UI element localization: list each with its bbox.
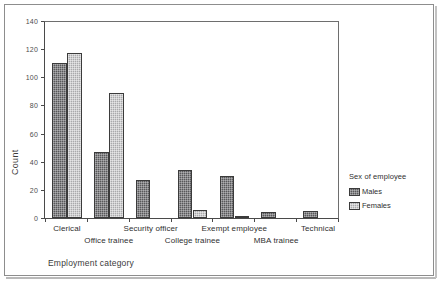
- y-axis-tick: [41, 49, 44, 50]
- y-axis: 020406080100120140: [0, 21, 44, 219]
- x-axis-tick: [129, 219, 130, 222]
- legend-swatch-icon: [349, 202, 360, 210]
- bar-office-trainee-males: [94, 152, 109, 218]
- y-axis-tick: [41, 162, 44, 163]
- bar-college-trainee-females: [193, 210, 208, 218]
- y-axis-tick-label: 120: [26, 46, 38, 53]
- x-axis-tick: [45, 219, 46, 222]
- y-axis-tick-label: 140: [26, 18, 38, 25]
- x-axis-title: Employment category: [48, 258, 134, 268]
- y-axis-tick-label: 100: [26, 74, 38, 81]
- legend-entries: MalesFemales: [349, 187, 435, 210]
- x-axis-tick: [212, 219, 213, 222]
- y-axis-tick-label: 0: [34, 215, 38, 222]
- y-axis-tick-label: 80: [30, 102, 38, 109]
- x-axis-category-label: College trainee: [165, 236, 220, 245]
- bar-clerical-males: [52, 63, 67, 218]
- legend-label: Females: [362, 201, 391, 210]
- bar-clerical-females: [67, 53, 82, 218]
- legend-entry-males: Males: [349, 187, 435, 196]
- x-axis-tick: [87, 219, 88, 222]
- outer-border-shadow-bottom: [6, 277, 436, 279]
- x-axis-tick: [254, 219, 255, 222]
- y-axis-tick: [41, 190, 44, 191]
- x-axis-category-label: Security officer: [123, 224, 177, 233]
- x-axis-category-label: Clerical: [53, 224, 80, 233]
- bar-security-officer-males: [136, 180, 151, 218]
- y-axis-tick-label: 60: [30, 130, 38, 137]
- outer-border-shadow-right: [435, 6, 437, 278]
- y-axis-tick: [41, 105, 44, 106]
- legend-swatch-icon: [349, 188, 360, 196]
- x-axis-tick: [296, 219, 297, 222]
- bar-college-trainee-males: [178, 170, 193, 218]
- y-axis-tick-label: 40: [30, 158, 38, 165]
- chart-screenshot: 020406080100120140 Count ClericalOffice …: [0, 0, 442, 284]
- bar-mba-trainee-males: [261, 212, 276, 218]
- x-axis-category-label: Office trainee: [84, 236, 133, 245]
- y-axis-tick: [41, 77, 44, 78]
- x-axis-category-label: MBA trainee: [254, 236, 299, 245]
- y-axis-tick: [41, 21, 44, 22]
- x-axis-category-label: Exempt employee: [202, 224, 268, 233]
- bar-exempt-employee-females: [235, 216, 250, 218]
- y-axis-title: Count: [10, 149, 20, 175]
- plot-area: [45, 21, 338, 218]
- x-axis-tick: [338, 219, 339, 222]
- legend-label: Males: [362, 187, 382, 196]
- legend: Sex of employee MalesFemales: [349, 172, 435, 215]
- legend-entry-females: Females: [349, 201, 435, 210]
- y-axis-tick: [41, 134, 44, 135]
- bar-technical-males: [303, 211, 318, 218]
- x-axis-category-label: Technical: [301, 224, 335, 233]
- y-axis-tick-label: 20: [30, 186, 38, 193]
- x-axis-tick: [171, 219, 172, 222]
- legend-title: Sex of employee: [349, 172, 435, 181]
- bar-office-trainee-females: [109, 93, 124, 218]
- y-axis-tick: [41, 218, 44, 219]
- bar-exempt-employee-males: [220, 176, 235, 218]
